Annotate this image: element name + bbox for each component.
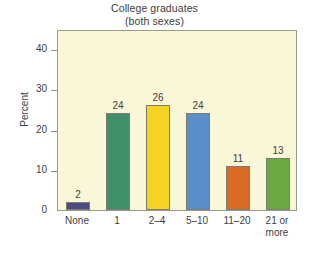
x-axis-label-line: 11–20 xyxy=(223,215,250,226)
bar-value-label: 24 xyxy=(96,100,140,111)
bar[interactable] xyxy=(66,202,90,210)
x-axis-label-line: more xyxy=(250,227,304,239)
chart-title-line-1: College graduates xyxy=(0,2,309,15)
bar[interactable] xyxy=(106,113,130,210)
bar-group[interactable]: 11 xyxy=(226,29,250,210)
bar-value-label: 2 xyxy=(56,189,100,200)
bar[interactable] xyxy=(266,158,290,210)
y-axis-tick-label: 20 xyxy=(36,124,47,135)
bar-value-label: 24 xyxy=(176,100,220,111)
bar[interactable] xyxy=(186,113,210,210)
bar-value-label: 26 xyxy=(136,92,180,103)
x-axis-label-line: None xyxy=(65,215,89,226)
bar[interactable] xyxy=(226,166,250,210)
x-axis-label-line: 1 xyxy=(114,215,120,226)
y-axis-tick-label: 0 xyxy=(41,204,47,215)
bar-value-label: 13 xyxy=(256,145,300,156)
x-axis-label: 21 ormore xyxy=(250,215,304,238)
y-axis-tick-label: 40 xyxy=(36,43,47,54)
y-axis-title: Percent xyxy=(19,80,30,140)
bar-value-label: 11 xyxy=(216,153,260,164)
bar[interactable] xyxy=(146,105,170,210)
y-axis-tick-label: 10 xyxy=(36,164,47,175)
bar-group[interactable]: 13 xyxy=(266,29,290,210)
bar-group[interactable]: 24 xyxy=(106,29,130,210)
bar-group[interactable]: 24 xyxy=(186,29,210,210)
plot-area: 22426241113 xyxy=(57,30,297,211)
chart-title: College graduates (both sexes) xyxy=(0,2,309,27)
y-axis-tick-label: 30 xyxy=(36,83,47,94)
x-axis-label-line: 21 or xyxy=(266,215,289,226)
bar-group[interactable]: 26 xyxy=(146,29,170,210)
x-axis-label-line: 2–4 xyxy=(149,215,166,226)
x-axis-label-line: 5–10 xyxy=(186,215,208,226)
chart-title-line-2: (both sexes) xyxy=(0,15,309,28)
bar-group[interactable]: 2 xyxy=(66,29,90,210)
